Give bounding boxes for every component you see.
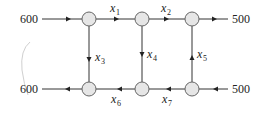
node-e xyxy=(135,82,149,96)
svg-text:2: 2 xyxy=(167,8,171,17)
svg-text:x: x xyxy=(109,1,116,15)
svg-text:x: x xyxy=(160,1,167,15)
arrow-right-icon xyxy=(164,17,169,22)
label-x2: x 2 xyxy=(160,1,171,17)
arrow-left-icon xyxy=(65,87,70,92)
label-out-500: 500 xyxy=(232,12,250,26)
label-x6: x 6 xyxy=(110,92,121,108)
arrow-left-icon xyxy=(117,87,122,92)
arrow-right-icon xyxy=(114,17,119,22)
arrow-right-icon xyxy=(66,17,71,22)
label-in-500: 500 xyxy=(232,82,250,96)
node-a xyxy=(82,12,96,26)
svg-text:x: x xyxy=(196,47,203,61)
arrow-down-icon xyxy=(140,52,145,57)
svg-text:3: 3 xyxy=(101,57,105,66)
arrow-right-icon xyxy=(212,17,217,22)
arrow-down-icon xyxy=(87,57,92,62)
svg-text:4: 4 xyxy=(153,54,157,63)
flow-network-diagram: 600 500 600 500 x 1 x 2 x 3 x 4 x 5 x 6 … xyxy=(0,0,266,113)
svg-text:7: 7 xyxy=(168,99,172,108)
svg-text:1: 1 xyxy=(116,8,120,17)
svg-text:6: 6 xyxy=(117,99,121,108)
svg-text:5: 5 xyxy=(203,54,207,63)
svg-text:x: x xyxy=(161,92,168,106)
arrow-up-icon xyxy=(190,55,195,60)
svg-text:x: x xyxy=(110,92,117,106)
label-out-600: 600 xyxy=(20,82,38,96)
label-x3: x 3 xyxy=(94,50,105,66)
arrow-left-icon xyxy=(213,87,218,92)
arrow-left-icon xyxy=(166,87,171,92)
node-b xyxy=(135,12,149,26)
node-c xyxy=(185,12,199,26)
node-f xyxy=(185,82,199,96)
label-x4: x 4 xyxy=(146,47,157,63)
svg-text:x: x xyxy=(94,50,101,64)
label-x7: x 7 xyxy=(161,92,172,108)
label-x5: x 5 xyxy=(196,47,207,63)
node-d xyxy=(82,82,96,96)
label-in-600: 600 xyxy=(20,12,38,26)
label-x1: x 1 xyxy=(109,1,120,17)
svg-text:x: x xyxy=(146,47,153,61)
